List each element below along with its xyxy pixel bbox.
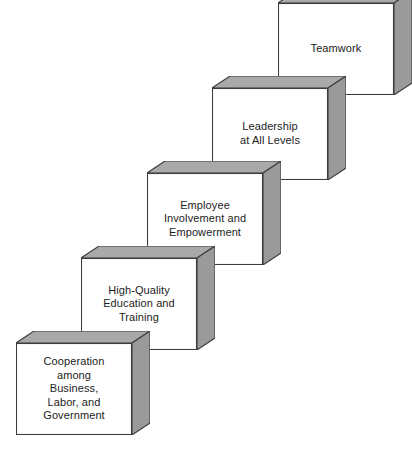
cube-top-face-4 <box>212 76 346 88</box>
cube-side-face-1 <box>132 331 150 435</box>
cube-side-face-4 <box>328 76 346 180</box>
cube-side-face-5 <box>394 0 412 95</box>
cube-top-face-2 <box>81 246 215 258</box>
staircase-block-1-label: Cooperation among Business, Labor, and G… <box>16 343 132 435</box>
staircase-block-1: Cooperation among Business, Labor, and G… <box>16 331 150 435</box>
cube-top-face-1 <box>16 331 150 343</box>
cube-side-face-2 <box>197 246 215 350</box>
cube-side-face-3 <box>263 161 281 265</box>
cube-top-face-3 <box>147 161 281 173</box>
